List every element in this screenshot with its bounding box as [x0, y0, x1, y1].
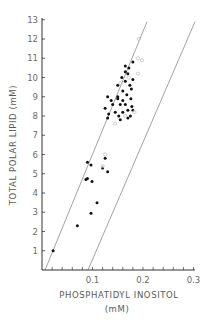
y-tick-label: 4: [33, 188, 38, 198]
upper-bound-line: [45, 22, 147, 270]
y-tick-label: 6: [33, 150, 38, 160]
filled-point: [130, 88, 133, 91]
filled-point: [116, 95, 119, 98]
x-axis-title: PHOSPHATIDYL INOSITOL: [59, 290, 178, 300]
filled-point: [128, 84, 131, 87]
x-axis-unit: (mM): [105, 304, 130, 314]
scatter-chart: 12345678910111213 0.10.20.3 TOTAL POLAR …: [0, 0, 204, 328]
y-tick-label: 11: [27, 53, 38, 63]
y-tick-label: 10: [27, 73, 38, 83]
y-tick-label: 7: [33, 130, 38, 140]
y-tick-label: 13: [27, 15, 38, 25]
y-tick-label: 5: [33, 169, 38, 179]
filled-point: [89, 212, 92, 215]
filled-point: [124, 103, 127, 106]
filled-point: [124, 64, 127, 67]
filled-point: [119, 118, 122, 121]
filled-point: [127, 66, 130, 69]
open-point: [114, 122, 117, 125]
axes: [42, 18, 195, 270]
filled-point: [121, 89, 124, 92]
filled-point: [107, 113, 110, 116]
filled-point: [106, 116, 109, 119]
boundary-lines: [45, 22, 195, 270]
filled-point: [89, 164, 92, 167]
open-point: [140, 59, 143, 62]
filled-point: [125, 93, 128, 96]
y-axis-title: TOTAL POLAR LIPID (mM): [8, 85, 18, 206]
y-tick-label: 3: [33, 207, 38, 217]
filled-point: [119, 103, 122, 106]
y-tick-label: 2: [33, 227, 38, 237]
filled-point: [131, 78, 134, 81]
y-tick-label: 12: [27, 34, 38, 44]
filled-point: [129, 97, 132, 100]
x-tick-label: 0.3: [187, 275, 201, 285]
filled-point: [130, 105, 133, 108]
filled-point: [131, 61, 134, 64]
filled-point: [104, 157, 107, 160]
filled-point: [114, 111, 117, 114]
open-point: [133, 111, 136, 114]
y-tick-label: 9: [33, 92, 38, 102]
open-point: [124, 114, 127, 117]
filled-point: [117, 115, 120, 118]
open-point: [104, 153, 107, 156]
filled-point: [52, 249, 55, 252]
filled-point: [111, 103, 114, 106]
x-tick-label: 0.1: [86, 275, 100, 285]
filled-point: [106, 170, 109, 173]
filled-point: [121, 99, 124, 102]
filled-point: [110, 99, 113, 102]
filled-point: [90, 180, 93, 183]
x-tick-label: 0.2: [136, 275, 150, 285]
open-point: [136, 57, 139, 60]
filled-point: [120, 76, 123, 79]
filled-point: [104, 107, 107, 110]
filled-point: [124, 70, 127, 73]
filled-point: [121, 111, 124, 114]
filled-point: [126, 109, 129, 112]
filled-point: [124, 80, 127, 83]
filled-point: [129, 115, 132, 118]
filled-point: [106, 95, 109, 98]
filled-point: [86, 177, 89, 180]
filled-point: [86, 161, 89, 164]
filled-point: [126, 72, 129, 75]
filled-point: [76, 224, 79, 227]
y-tick-label: 1: [33, 246, 38, 256]
open-point: [136, 72, 139, 75]
filled-point: [96, 201, 99, 204]
open-point: [127, 76, 130, 79]
y-tick-label: 8: [33, 111, 38, 121]
